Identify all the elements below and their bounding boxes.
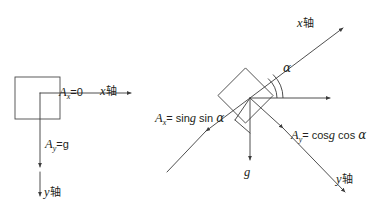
falling-block-square xyxy=(15,77,60,119)
left-diagram-group: Ax=0 x轴 Ay=g y轴 xyxy=(15,77,131,199)
physics-diagram: Ax=0 x轴 Ay=g y轴 xyxy=(0,0,381,216)
left-accel-y-label: Ay=g xyxy=(44,137,69,153)
right-x-axis-extension xyxy=(167,131,206,172)
right-x-axis-arrow xyxy=(250,28,343,98)
right-diagram-group: x轴 y轴 α g Ax= sing sin α Ay= cosg cos α xyxy=(154,16,366,192)
component-construction-line xyxy=(235,98,250,120)
left-accel-x-label: Ax=0 xyxy=(58,85,83,101)
component-construction-line xyxy=(235,120,250,133)
left-y-axis-label: y轴 xyxy=(42,185,61,199)
right-accel-x-label: Ax= sing sin α xyxy=(154,111,224,127)
angle-label: α xyxy=(283,61,291,75)
right-y-axis-label: y轴 xyxy=(334,172,353,186)
gravity-label: g xyxy=(244,165,250,179)
inclined-block-square xyxy=(218,68,273,123)
right-x-axis-label: x轴 xyxy=(296,16,314,30)
left-x-axis-label: x轴 xyxy=(99,84,117,98)
diagram-canvas: Ax=0 x轴 Ay=g y轴 xyxy=(0,0,381,216)
right-accel-y-label: Ay= cosg cos α xyxy=(290,128,366,144)
